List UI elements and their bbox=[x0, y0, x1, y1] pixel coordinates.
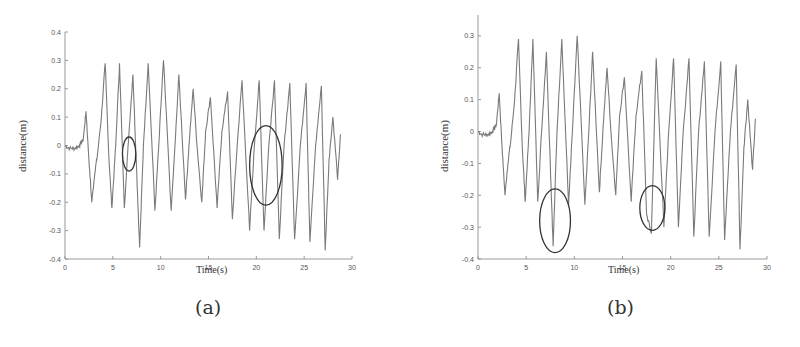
x-axis-label-a: Time(s) bbox=[196, 264, 227, 275]
panel-caption-a: (a) bbox=[195, 296, 221, 318]
x-tick-label: 0 bbox=[63, 264, 67, 271]
x-tick-label: 20 bbox=[252, 264, 260, 271]
chart-panel-a: 0.40.30.20.10-0.1-0.2-0.3-0.405101520253… bbox=[0, 0, 400, 347]
panel-caption-b: (b) bbox=[607, 296, 634, 318]
x-tick-label: 5 bbox=[524, 264, 528, 271]
chart-panel-b: 0.30.20.10-0.1-0.2-0.3-0.4051015202530 (… bbox=[410, 0, 800, 347]
y-tick-label: -0.2 bbox=[49, 199, 61, 206]
y-tick-label: -0.2 bbox=[462, 192, 474, 199]
x-tick-label: 5 bbox=[111, 264, 115, 271]
x-axis-label-b: Time(s) bbox=[608, 264, 639, 275]
x-tick-label: 10 bbox=[157, 264, 165, 271]
y-tick-label: 0.3 bbox=[464, 32, 474, 39]
x-tick-label: 25 bbox=[715, 264, 723, 271]
y-tick-label: 0.1 bbox=[51, 114, 61, 121]
y-tick-label: -0.3 bbox=[49, 227, 61, 234]
y-tick-label: 0.2 bbox=[51, 85, 61, 92]
line-chart-a: 0.40.30.20.10-0.1-0.2-0.3-0.405101520253… bbox=[0, 0, 400, 347]
y-tick-label: 0 bbox=[57, 142, 61, 149]
y-tick-label: -0.1 bbox=[49, 170, 61, 177]
y-tick-label: -0.1 bbox=[462, 160, 474, 167]
y-tick-label: 0.1 bbox=[464, 96, 474, 103]
x-tick-label: 0 bbox=[476, 264, 480, 271]
x-tick-label: 30 bbox=[763, 264, 771, 271]
y-tick-label: -0.4 bbox=[49, 256, 61, 263]
x-tick-label: 20 bbox=[667, 264, 675, 271]
highlight-ellipse bbox=[122, 137, 135, 171]
y-tick-label: 0.4 bbox=[51, 29, 61, 36]
x-tick-label: 30 bbox=[348, 264, 356, 271]
line-chart-b: 0.30.20.10-0.1-0.2-0.3-0.4051015202530 bbox=[410, 0, 800, 347]
x-tick-label: 25 bbox=[300, 264, 308, 271]
x-tick-label: 10 bbox=[570, 264, 578, 271]
y-axis-label-a: distance(m) bbox=[16, 120, 28, 172]
y-axis-label-b: distance(m) bbox=[438, 120, 450, 172]
y-tick-label: 0.2 bbox=[464, 64, 474, 71]
y-tick-label: 0 bbox=[470, 128, 474, 135]
signal-line bbox=[478, 36, 755, 250]
y-tick-label: 0.3 bbox=[51, 57, 61, 64]
y-tick-label: -0.4 bbox=[462, 256, 474, 263]
y-tick-label: -0.3 bbox=[462, 224, 474, 231]
signal-line bbox=[65, 60, 341, 250]
